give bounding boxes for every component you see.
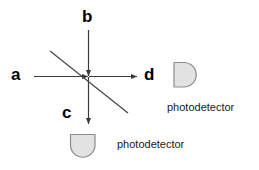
optics-diagram: a b c d photodetector photodetector	[0, 0, 259, 170]
photodetector-d-shape	[174, 63, 196, 88]
port-label-b: b	[82, 8, 92, 25]
photodetector-d-caption: photodetector	[167, 102, 234, 113]
port-label-c: c	[62, 104, 71, 121]
port-label-a: a	[11, 66, 20, 83]
port-label-d: d	[144, 66, 154, 83]
photodetector-c-caption: photodetector	[117, 139, 184, 150]
photodetector-c-shape	[71, 135, 96, 158]
